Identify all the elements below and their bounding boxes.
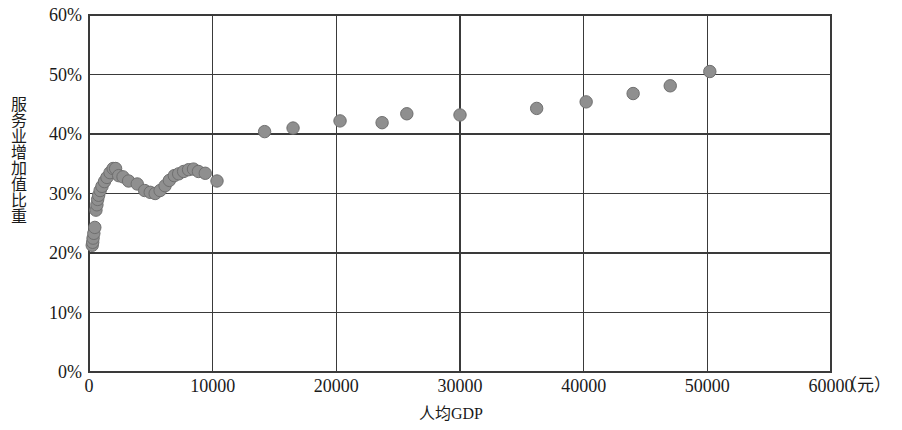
scatter-chart: 服务业增加值比重 0%10%20%30%40%50%60% 0100002000… bbox=[0, 0, 902, 430]
data-point bbox=[530, 102, 542, 114]
data-point bbox=[580, 96, 592, 108]
data-point bbox=[627, 87, 639, 99]
gridlines bbox=[89, 15, 831, 372]
x-tick-label: 50000 bbox=[661, 376, 753, 396]
data-point bbox=[211, 175, 223, 187]
data-point bbox=[334, 115, 346, 127]
data-point bbox=[89, 221, 101, 233]
data-point bbox=[454, 109, 466, 121]
data-point bbox=[401, 108, 413, 120]
data-points bbox=[86, 65, 716, 251]
x-axis-unit-label: （元） bbox=[840, 376, 891, 396]
data-point bbox=[376, 116, 388, 128]
data-point bbox=[287, 122, 299, 134]
data-point bbox=[199, 167, 211, 179]
x-axis-tick-labels: 0100002000030000400005000060000 bbox=[0, 376, 902, 402]
plot-area bbox=[0, 0, 902, 430]
x-tick-label: 0 bbox=[43, 376, 135, 396]
x-tick-label: 30000 bbox=[414, 376, 506, 396]
x-tick-label: 40000 bbox=[538, 376, 630, 396]
data-point bbox=[664, 80, 676, 92]
x-tick-label: 20000 bbox=[290, 376, 382, 396]
data-point bbox=[258, 125, 270, 137]
data-point bbox=[704, 65, 716, 77]
x-tick-label: 10000 bbox=[167, 376, 259, 396]
x-axis-title: 人均GDP bbox=[0, 404, 902, 424]
